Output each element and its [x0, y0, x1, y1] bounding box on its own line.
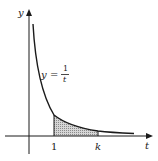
- tick-label-upper: k: [95, 141, 101, 152]
- function-label-denominator: t: [63, 75, 67, 84]
- function-label-equals: =: [50, 69, 58, 80]
- reciprocal-area-diagram: y t 1 k y = 1 t: [0, 0, 158, 161]
- x-axis-arrow-icon: [146, 133, 153, 139]
- function-label-numerator: 1: [63, 64, 68, 73]
- function-label: y = 1 t: [40, 64, 69, 84]
- function-label-lhs: y: [40, 69, 47, 80]
- y-axis-label: y: [17, 7, 24, 18]
- y-axis-arrow-icon: [26, 9, 32, 16]
- x-axis-label: t: [145, 140, 150, 151]
- reciprocal-curve: [33, 24, 134, 134]
- tick-label-lower: 1: [51, 141, 57, 152]
